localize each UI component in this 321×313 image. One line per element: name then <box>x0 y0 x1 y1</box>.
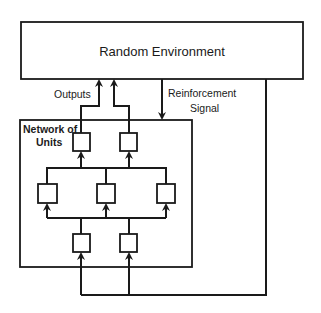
unit-top-2 <box>120 133 137 151</box>
environment-label: Random Environment <box>99 44 225 59</box>
network-label-line2: Units <box>36 136 62 148</box>
unit-middle-2 <box>97 184 115 203</box>
network-diagram: Random Environment Network of Units Outp… <box>0 0 321 313</box>
unit-middle-1 <box>38 184 57 203</box>
unit-middle-3 <box>157 184 175 203</box>
unit-bottom-1 <box>73 234 90 252</box>
unit-bottom-2 <box>120 234 137 252</box>
unit-top-1 <box>73 133 90 151</box>
outputs-label: Outputs <box>54 88 91 100</box>
reinforcement-label-line1: Reinforcement <box>168 87 236 99</box>
reinforcement-label-line2: Signal <box>190 102 219 114</box>
network-label-line1: Network of <box>23 123 78 135</box>
random-environment-box: Random Environment <box>21 22 303 79</box>
